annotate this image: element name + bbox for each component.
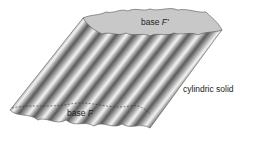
label-cylindric-solid: cylindric solid (183, 84, 234, 94)
solid-body (10, 18, 222, 128)
label-base-f-prime: base F' (141, 17, 169, 27)
cylindric-solid-figure (0, 0, 261, 147)
label-base-f: base F (67, 108, 93, 118)
